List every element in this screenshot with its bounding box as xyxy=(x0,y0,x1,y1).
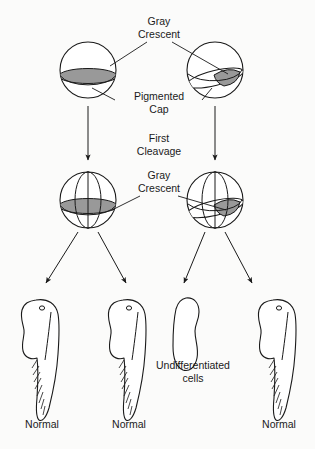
label-pigmented-cap-line2: Cap xyxy=(149,103,168,115)
label-gray-crescent-mid-line2: Crescent xyxy=(138,182,180,194)
label-outcome-2: Normal xyxy=(112,418,146,430)
tadpole-4 xyxy=(258,300,296,421)
label-pigmented-cap-line1: Pigmented xyxy=(134,90,184,102)
arrow-to-outcome-1 xyxy=(46,232,78,283)
label-first-cleavage-line1: First xyxy=(149,132,169,144)
label-undifferentiated-line2: cells xyxy=(182,372,203,384)
tadpole-4-eye xyxy=(276,306,281,310)
label-gray-crescent-mid-line1: Gray xyxy=(148,169,172,181)
egg-left xyxy=(59,42,117,98)
tadpole-1-eye xyxy=(39,306,44,310)
arrow-to-outcome-4 xyxy=(225,232,252,283)
egg-right xyxy=(185,42,245,98)
gray-crescent-diagram: Gray Crescent Pigmented Cap First Cleava… xyxy=(0,0,315,449)
tadpole-2-eye xyxy=(126,306,131,310)
zygote-right xyxy=(185,171,245,229)
label-outcome-4: Normal xyxy=(262,418,296,430)
leader-gray-crescent-to-egg-left xyxy=(110,42,147,66)
label-undifferentiated-line1: Undifferentiated xyxy=(156,359,230,371)
tadpole-2 xyxy=(108,300,146,421)
diagram-canvas: Gray Crescent Pigmented Cap First Cleava… xyxy=(0,0,315,449)
label-gray-crescent-top-line2: Crescent xyxy=(138,28,180,40)
arrow-to-outcome-3 xyxy=(184,232,205,283)
arrow-to-outcome-2 xyxy=(98,232,126,283)
label-gray-crescent-top-line1: Gray xyxy=(148,15,172,27)
label-outcome-1: Normal xyxy=(25,418,59,430)
tadpole-1 xyxy=(21,300,59,421)
label-first-cleavage-line2: Cleavage xyxy=(137,145,182,157)
zygote-left xyxy=(59,171,117,229)
